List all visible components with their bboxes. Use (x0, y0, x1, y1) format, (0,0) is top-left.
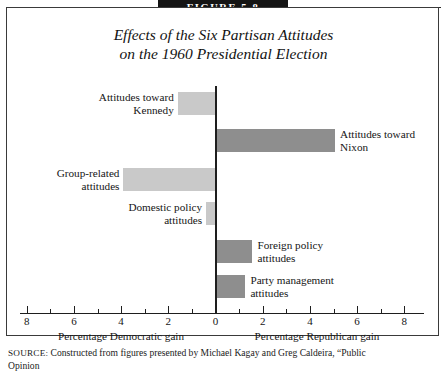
x-tick-major-2 (121, 306, 122, 313)
x-tick-label-0: 8 (17, 315, 37, 327)
x-tick-label-6: 4 (300, 315, 320, 327)
x-tick-label-8: 8 (394, 315, 414, 327)
bar-label-5-line-1: Foreign policy (258, 239, 324, 252)
bar-label-2-line-2: Nixon (340, 141, 415, 154)
x-tick-label-4: 0 (206, 315, 226, 327)
x-tick-major-7 (357, 306, 358, 313)
x-tick-major-3 (168, 306, 169, 313)
source-label: SOURCE: (8, 348, 48, 358)
x-axis-caption-democratic: Percentage Democratic gain (25, 330, 217, 342)
x-tick-minor-6 (334, 309, 335, 313)
x-tick-label-5: 2 (253, 315, 273, 327)
x-tick-major-1 (74, 306, 75, 313)
x-tick-minor-1 (98, 309, 99, 313)
x-tick-label-1: 6 (64, 315, 84, 327)
x-tick-minor-5 (286, 309, 287, 313)
figure-container: FIGURE 5.8 Effects of the Six Partisan A… (0, 0, 447, 377)
chart-plot-area: Percentage Democratic gain Percentage Re… (7, 8, 440, 337)
bar-label-4-line-2: attitudes (52, 214, 202, 227)
bar-label-6-line-2: attitudes (250, 287, 334, 300)
bar-2 (217, 129, 335, 152)
bar-label-5: Foreign policyattitudes (258, 239, 324, 264)
x-tick-major-5 (263, 306, 264, 313)
x-tick-minor-7 (381, 309, 382, 313)
bar-label-1: Attitudes towardKennedy (24, 91, 174, 116)
bar-label-3-line-2: attitudes (0, 180, 119, 193)
x-tick-major-6 (310, 306, 311, 313)
bar-label-6: Party managementattitudes (250, 274, 334, 299)
x-tick-label-3: 2 (158, 315, 178, 327)
bar-label-4-line-1: Domestic policy (52, 201, 202, 214)
source-note: SOURCE: Constructed from figures present… (8, 347, 440, 371)
bar-label-3: Group-relatedattitudes (0, 167, 119, 192)
bar-label-2-line-1: Attitudes toward (340, 128, 415, 141)
x-tick-label-7: 6 (347, 315, 367, 327)
bar-label-4: Domestic policyattitudes (52, 201, 202, 226)
x-tick-minor-0 (50, 309, 51, 313)
x-tick-major-4 (216, 306, 217, 313)
x-tick-major-0 (27, 306, 28, 313)
bar-label-1-line-1: Attitudes toward (24, 91, 174, 104)
source-text-line-2: Opinion (8, 360, 440, 372)
bar-label-3-line-1: Group-related (0, 167, 119, 180)
bar-6 (217, 275, 245, 298)
source-text-line-1: Constructed from figures presented by Mi… (51, 347, 366, 358)
bar-label-5-line-2: attitudes (258, 252, 324, 265)
x-axis-caption-republican: Percentage Republican gain (219, 330, 415, 342)
bar-label-6-line-1: Party management (250, 274, 334, 287)
bar-label-1-line-2: Kennedy (24, 104, 174, 117)
bar-1 (178, 92, 216, 115)
bar-label-2: Attitudes towardNixon (340, 128, 415, 153)
bar-4 (206, 202, 215, 225)
x-tick-label-2: 4 (111, 315, 131, 327)
x-tick-minor-3 (192, 309, 193, 313)
figure-frame: Effects of the Six Partisan Attitudes on… (6, 7, 439, 336)
x-tick-minor-4 (239, 309, 240, 313)
bar-5 (217, 240, 252, 263)
x-tick-major-8 (404, 306, 405, 313)
bar-3 (123, 168, 215, 191)
x-tick-minor-2 (145, 309, 146, 313)
